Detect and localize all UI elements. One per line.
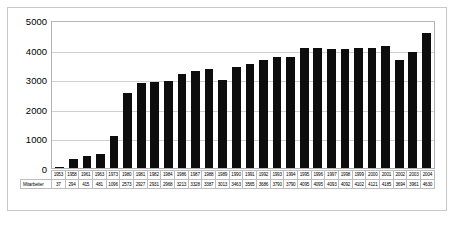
bar-slot — [230, 22, 244, 168]
table-row-years: 1953195819611963197319801981198219841986… — [20, 170, 435, 179]
year-cell: 1998 — [339, 170, 353, 179]
year-cell: 1993 — [271, 170, 285, 179]
bar[interactable] — [354, 48, 363, 168]
table-row-values: Mitarbeiter 3729441548110962573292729312… — [20, 179, 435, 189]
value-cells: 3729441548110962573292729312968321333283… — [51, 179, 435, 189]
value-cell: 4092 — [339, 179, 353, 189]
value-cell: 4185 — [380, 179, 394, 189]
bar[interactable] — [96, 154, 105, 168]
bar[interactable] — [218, 80, 227, 168]
value-cell: 4093 — [325, 179, 339, 189]
value-cell: 3686 — [257, 179, 271, 189]
bar-slot — [53, 22, 67, 168]
bar[interactable] — [408, 52, 417, 168]
bar[interactable] — [341, 49, 350, 168]
bar-slot — [94, 22, 108, 168]
value-cell: 3790 — [284, 179, 298, 189]
bar-slot — [121, 22, 135, 168]
value-cell: 3790 — [271, 179, 285, 189]
bar-slot — [297, 22, 311, 168]
value-cell: 3013 — [216, 179, 230, 189]
y-axis-tick-label: 1000 — [26, 135, 47, 144]
bar[interactable] — [232, 67, 241, 168]
bar-slot — [162, 22, 176, 168]
bar[interactable] — [205, 69, 214, 168]
bar-slot — [80, 22, 94, 168]
value-cell: 4095 — [298, 179, 312, 189]
value-cell: 2968 — [161, 179, 175, 189]
year-cell: 1981 — [134, 170, 148, 179]
bar[interactable] — [69, 159, 78, 168]
bar[interactable] — [395, 60, 404, 168]
value-cell: 415 — [79, 179, 93, 189]
bar[interactable] — [137, 83, 146, 168]
value-cell: 3463 — [230, 179, 244, 189]
bar[interactable] — [123, 93, 132, 168]
bar-slot — [406, 22, 420, 168]
year-cell: 1996 — [312, 170, 326, 179]
bar[interactable] — [381, 46, 390, 168]
bar[interactable] — [259, 60, 268, 168]
bar[interactable] — [286, 57, 295, 168]
bar-slot — [257, 22, 271, 168]
year-cell: 1988 — [202, 170, 216, 179]
value-cell: 3213 — [175, 179, 189, 189]
year-cell: 1994 — [284, 170, 298, 179]
year-cell: 1990 — [230, 170, 244, 179]
bar[interactable] — [83, 156, 92, 168]
year-cells: 1953195819611963197319801981198219841986… — [51, 170, 435, 179]
year-cell: 1973 — [107, 170, 121, 179]
bar-slot — [107, 22, 121, 168]
bar-slot — [270, 22, 284, 168]
value-cell: 4095 — [312, 179, 326, 189]
value-cell: 3328 — [189, 179, 203, 189]
bar[interactable] — [55, 167, 64, 168]
bar[interactable] — [246, 64, 255, 168]
year-cell: 1989 — [216, 170, 230, 179]
data-table: 1953195819611963197319801981198219841986… — [20, 170, 435, 189]
bar-slot — [392, 22, 406, 168]
bar[interactable] — [273, 57, 282, 168]
y-axis-tick-label: 5000 — [26, 17, 47, 26]
year-cell: 1984 — [161, 170, 175, 179]
bar[interactable] — [300, 48, 309, 168]
value-cell: 3565 — [243, 179, 257, 189]
bar[interactable] — [178, 74, 187, 168]
value-cell: 37 — [51, 179, 66, 189]
bar-slot — [67, 22, 81, 168]
y-axis-tick-label: 4000 — [26, 46, 47, 55]
value-cell: 4630 — [421, 179, 435, 189]
bar[interactable] — [164, 81, 173, 168]
bar[interactable] — [150, 82, 159, 168]
bar-slot — [148, 22, 162, 168]
value-cell: 4102 — [353, 179, 367, 189]
year-cell: 1999 — [353, 170, 367, 179]
bar[interactable] — [422, 33, 431, 168]
bar[interactable] — [368, 48, 377, 168]
year-cell: 1958 — [66, 170, 80, 179]
y-axis-tick-label: 3000 — [26, 76, 47, 85]
year-cell: 1991 — [243, 170, 257, 179]
bar-slot — [202, 22, 216, 168]
bar[interactable] — [110, 136, 119, 168]
year-row-label — [20, 170, 51, 179]
series-row-label: Mitarbeiter — [20, 179, 51, 189]
value-cell: 3694 — [394, 179, 408, 189]
y-axis-tick-label: 2000 — [26, 105, 47, 114]
bar-slot — [243, 22, 257, 168]
value-cell: 2927 — [134, 179, 148, 189]
bar-slot — [365, 22, 379, 168]
year-cell: 1995 — [298, 170, 312, 179]
bar[interactable] — [327, 49, 336, 169]
year-cell: 1982 — [148, 170, 162, 179]
year-cell: 1953 — [51, 170, 66, 179]
value-cell: 294 — [66, 179, 80, 189]
year-cell: 1992 — [257, 170, 271, 179]
year-cell: 2002 — [394, 170, 408, 179]
value-cell: 3387 — [202, 179, 216, 189]
bar-slot — [216, 22, 230, 168]
year-cell: 2001 — [380, 170, 394, 179]
bar[interactable] — [191, 71, 200, 168]
bar[interactable] — [313, 48, 322, 168]
bar-slot — [311, 22, 325, 168]
